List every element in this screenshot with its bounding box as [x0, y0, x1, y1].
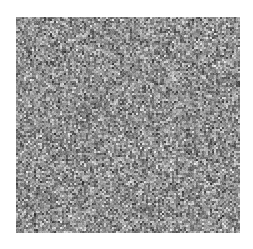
noise-texture-image: Grayscale random noise texture — [16, 17, 240, 233]
image-description: Grayscale random noise texture — [16, 233, 17, 234]
noise-canvas — [16, 17, 240, 233]
